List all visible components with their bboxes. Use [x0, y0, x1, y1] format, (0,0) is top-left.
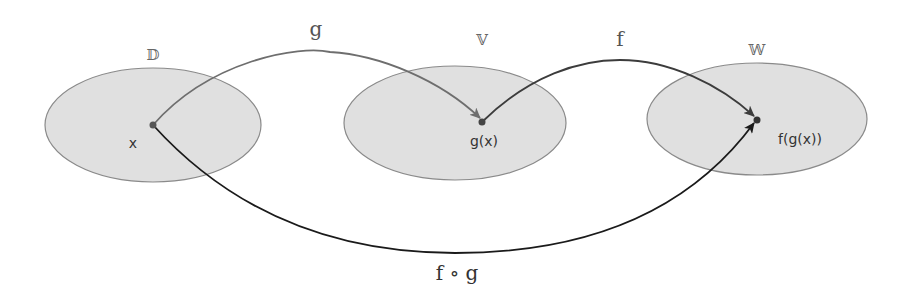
point-x-label: x	[129, 135, 137, 151]
set-v-label: 𝕍	[475, 31, 488, 49]
set-w-label: 𝕎	[748, 41, 767, 59]
arrow-f-label: f	[616, 27, 625, 51]
arrow-g-label: g	[310, 17, 323, 41]
point-fgx-label: f(g(x))	[778, 131, 822, 147]
point-gx-dot	[479, 119, 486, 126]
set-d: 𝔻	[45, 46, 261, 182]
set-d-label: 𝔻	[146, 46, 159, 64]
set-v: 𝕍	[344, 31, 566, 180]
point-gx-label: g(x)	[470, 133, 498, 149]
point-fgx-dot	[754, 117, 761, 124]
composition-diagram: 𝔻 𝕍 𝕎 g f f ∘ g x g(x) f(g(x))	[0, 0, 913, 302]
arrow-fog-label: f ∘ g	[436, 261, 479, 285]
point-x-dot	[150, 122, 157, 129]
set-w: 𝕎	[647, 41, 867, 175]
